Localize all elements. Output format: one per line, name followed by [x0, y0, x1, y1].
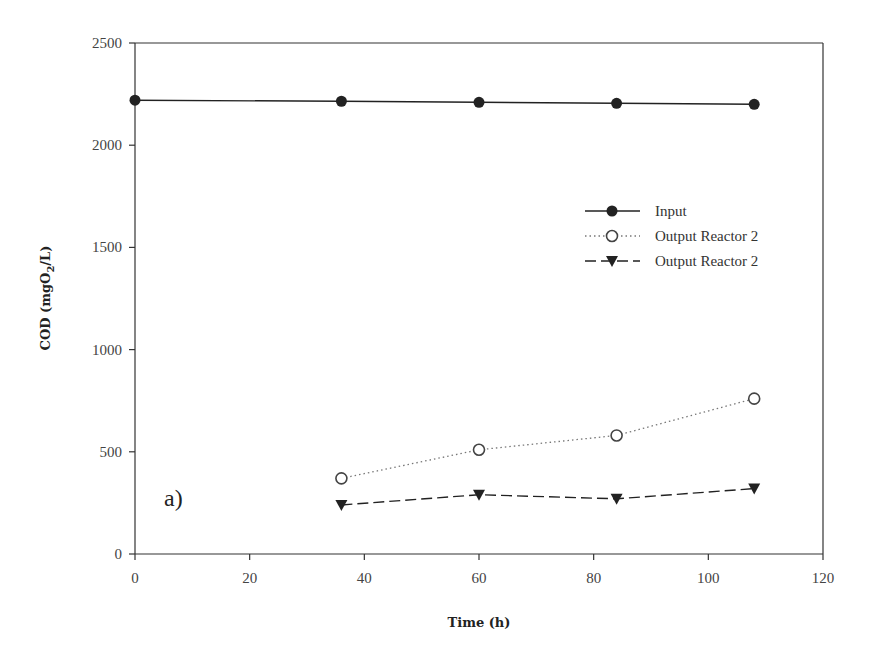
- series-line: [135, 100, 754, 104]
- x-tick-label: 60: [472, 570, 487, 586]
- y-tick-label: 2000: [92, 137, 122, 153]
- open-circle-marker: [607, 231, 618, 242]
- x-tick-label: 40: [357, 570, 372, 586]
- x-tick-label: 80: [586, 570, 601, 586]
- series-3: [335, 484, 760, 511]
- open-circle-marker: [474, 444, 485, 455]
- series-1: [130, 95, 760, 110]
- legend-label: Output Reactor 2: [655, 253, 758, 269]
- legend-item: Output Reactor 2: [585, 228, 758, 244]
- filled-circle-marker: [474, 97, 485, 108]
- data-series: [130, 95, 761, 511]
- filled-circle-marker: [611, 98, 622, 109]
- legend-label: Output Reactor 2: [655, 228, 758, 244]
- x-tick-label: 120: [812, 570, 835, 586]
- triangle-down-marker: [611, 494, 623, 505]
- legend-item: Input: [585, 203, 687, 219]
- y-tick-label: 2500: [92, 35, 122, 51]
- triangle-down-marker: [335, 500, 347, 511]
- y-tick-label: 500: [100, 444, 123, 460]
- filled-circle-marker: [336, 96, 347, 107]
- legend-item: Output Reactor 2: [585, 253, 758, 269]
- x-tick-label: 100: [697, 570, 720, 586]
- filled-circle-marker: [749, 99, 760, 110]
- x-tick-label: 0: [131, 570, 139, 586]
- cod-line-chart: 05001000150020002500020406080100120 Inpu…: [0, 0, 875, 667]
- series-line: [341, 489, 754, 505]
- open-circle-marker: [611, 430, 622, 441]
- y-tick-label: 1000: [92, 342, 122, 358]
- y-tick-label: 0: [115, 546, 123, 562]
- series-line: [341, 399, 754, 479]
- panel-label: a): [164, 485, 183, 511]
- open-circle-marker: [749, 393, 760, 404]
- x-tick-label: 20: [242, 570, 257, 586]
- filled-circle-marker: [607, 206, 618, 217]
- legend: InputOutput Reactor 2Output Reactor 2: [585, 203, 758, 269]
- series-2: [336, 393, 760, 484]
- axes: 05001000150020002500020406080100120: [92, 35, 834, 586]
- open-circle-marker: [336, 473, 347, 484]
- filled-circle-marker: [130, 95, 141, 106]
- y-tick-label: 1500: [92, 239, 122, 255]
- legend-label: Input: [655, 203, 687, 219]
- x-axis-title: Time (h): [448, 615, 511, 630]
- y-axis-title: COD (mgO2/L): [38, 246, 56, 351]
